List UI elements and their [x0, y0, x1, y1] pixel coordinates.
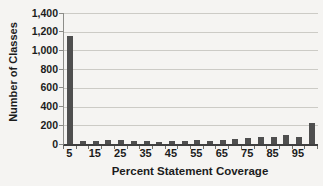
y-tick-mark — [59, 13, 63, 14]
gridline-1400 — [64, 13, 318, 14]
x-axis-title: Percent Statement Coverage — [63, 165, 317, 177]
gridline-600 — [64, 88, 318, 89]
y-tick-mark — [59, 50, 63, 51]
x-tick-label: 35 — [134, 147, 158, 159]
y-tick-mark — [59, 87, 63, 88]
bar-55 — [194, 140, 200, 144]
bar-95 — [296, 137, 302, 144]
bar-70 — [232, 139, 238, 144]
bar-100 — [309, 123, 315, 144]
bar-75 — [245, 138, 251, 144]
bar-85 — [271, 137, 277, 144]
bar-60 — [207, 141, 213, 144]
y-tick-mark — [59, 125, 63, 126]
coverage-histogram-figure: Number of Classes Percent Statement Cove… — [0, 0, 323, 186]
bar-25 — [118, 140, 124, 144]
plot-area — [63, 13, 318, 146]
y-tick-mark — [59, 144, 63, 145]
gridline-1200 — [64, 32, 318, 33]
gridline-400 — [64, 107, 318, 108]
bar-30 — [131, 141, 137, 144]
y-tick-mark — [59, 31, 63, 32]
bar-45 — [169, 141, 175, 144]
x-tick-label: 85 — [261, 147, 285, 159]
x-tick-label: 25 — [108, 147, 132, 159]
x-tick-label: 75 — [235, 147, 259, 159]
x-tick-label: 65 — [210, 147, 234, 159]
bar-35 — [144, 141, 150, 144]
bar-50 — [182, 141, 188, 144]
bar-15 — [93, 141, 99, 144]
y-tick-label: 400 — [14, 101, 58, 112]
y-tick-label: 1,200 — [14, 26, 58, 37]
x-tick-mark — [317, 146, 318, 149]
x-tick-label: 15 — [83, 147, 107, 159]
gridline-1000 — [64, 50, 318, 51]
y-tick-label: 1,000 — [14, 45, 58, 56]
bar-20 — [105, 140, 111, 144]
y-tick-label: 800 — [14, 64, 58, 75]
y-tick-mark — [59, 106, 63, 107]
y-tick-mark — [59, 69, 63, 70]
bar-80 — [258, 137, 264, 144]
bar-10 — [80, 141, 86, 144]
x-tick-label: 55 — [184, 147, 208, 159]
x-tick-label: 5 — [57, 147, 81, 159]
y-tick-label: 0 — [14, 139, 58, 150]
y-tick-label: 1,400 — [14, 8, 58, 19]
x-tick-label: 95 — [286, 147, 310, 159]
bar-40 — [156, 142, 162, 144]
y-tick-label: 600 — [14, 82, 58, 93]
gridline-800 — [64, 69, 318, 70]
y-tick-label: 200 — [14, 120, 58, 131]
x-tick-label: 45 — [159, 147, 183, 159]
gridline-200 — [64, 125, 318, 126]
bar-5 — [67, 36, 73, 144]
bar-90 — [283, 135, 289, 144]
bar-65 — [220, 140, 226, 144]
